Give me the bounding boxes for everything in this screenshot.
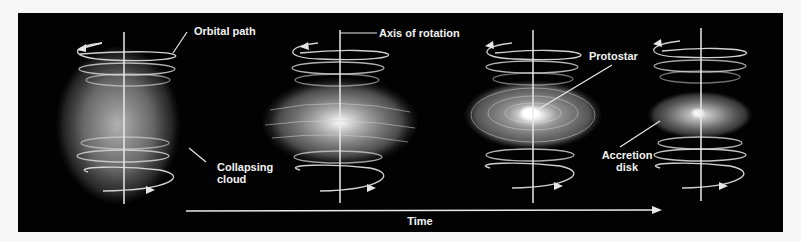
collapsing-cloud-leader (189, 148, 206, 162)
label-accretion-disk: Accretion disk (597, 149, 657, 173)
arrowhead-icon (652, 206, 662, 214)
arrowhead-icon (77, 44, 86, 52)
orbital-path-leader (173, 32, 187, 53)
label-time: Time (395, 215, 445, 227)
cloud-shape (54, 43, 182, 207)
label-accretion-disk-line2: disk (597, 161, 657, 173)
label-collapsing-cloud-line2: cloud (217, 173, 273, 185)
stage-2-flattening-cloud (258, 30, 422, 203)
time-arrow (186, 206, 662, 214)
label-collapsing-cloud-line1: Collapsing (217, 161, 273, 173)
label-collapsing-cloud: Collapsing cloud (217, 161, 273, 185)
label-protostar: Protostar (589, 50, 638, 62)
accretion-disk-leader (620, 121, 660, 147)
stage-1-collapsing-cloud (54, 32, 182, 207)
label-orbital-path: Orbital path (194, 25, 256, 37)
protostar-core (692, 109, 704, 117)
label-axis-of-rotation: Axis of rotation (379, 27, 460, 39)
protostar-core (521, 107, 539, 119)
stage-4-accretion-disk (620, 28, 754, 201)
label-accretion-disk-line1: Accretion (597, 149, 657, 161)
